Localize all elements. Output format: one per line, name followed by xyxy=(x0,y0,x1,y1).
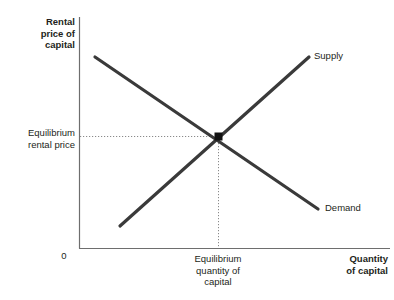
y-axis-title: Rental price of capital xyxy=(0,16,75,51)
equilibrium-rental-price-label: Equilibrium rental price xyxy=(0,127,75,150)
origin-label: 0 xyxy=(57,250,71,262)
supply-curve-label: Supply xyxy=(314,50,384,62)
equilibrium-point-marker xyxy=(215,133,223,141)
supply-demand-figure: Rental price of capital Equilibrium rent… xyxy=(0,0,394,300)
equilibrium-quantity-label: Equilibrium quantity of capital xyxy=(158,253,278,288)
x-axis-title: Quantity of capital xyxy=(274,253,388,276)
supply-curve xyxy=(120,57,309,226)
demand-curve-label: Demand xyxy=(325,202,394,214)
